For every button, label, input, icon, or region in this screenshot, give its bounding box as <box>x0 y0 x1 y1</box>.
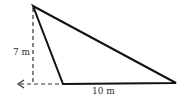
base-label: 10 m <box>92 86 115 96</box>
triangle-diagram: 7 m 10 m <box>0 0 194 100</box>
height-label: 7 m <box>13 47 31 57</box>
triangle <box>33 6 176 84</box>
